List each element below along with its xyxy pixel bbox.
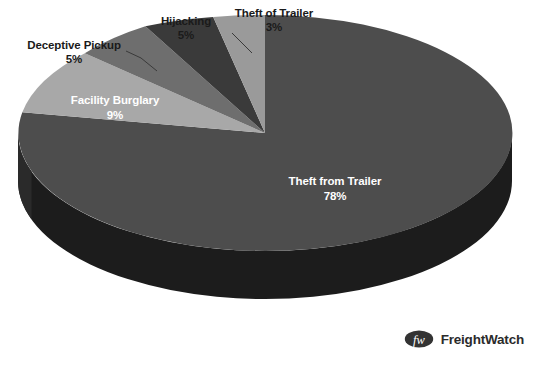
slice-label-deceptive-pickup-value: 5% bbox=[18, 52, 130, 66]
slice-label-facility-burglary-name: Facility Burglary bbox=[71, 94, 159, 106]
slice-label-theft-from-trailer-value: 78% bbox=[275, 189, 395, 204]
slice-label-facility-burglary: Facility Burglary 9% bbox=[57, 93, 173, 123]
fw-logo-monogram: fw bbox=[413, 333, 425, 347]
freightwatch-logo: fw FreightWatch bbox=[404, 329, 524, 349]
slice-label-theft-of-trailer-value: 3% bbox=[222, 20, 326, 34]
slice-label-theft-of-trailer: Theft of Trailer 3% bbox=[222, 6, 326, 35]
slice-label-theft-from-trailer-name: Theft from Trailer bbox=[289, 175, 382, 187]
slice-label-hijacking-name: Hijacking bbox=[161, 15, 211, 27]
slice-label-deceptive-pickup: Deceptive Pickup 5% bbox=[18, 38, 130, 67]
freightwatch-wordmark: FreightWatch bbox=[441, 332, 524, 347]
pie-chart-canvas: Deceptive Pickup 5% Hijacking 5% Theft o… bbox=[0, 0, 540, 367]
slice-label-facility-burglary-value: 9% bbox=[57, 108, 173, 123]
slice-label-deceptive-pickup-name: Deceptive Pickup bbox=[27, 39, 121, 51]
fw-logo-icon: fw bbox=[404, 329, 434, 349]
slice-label-theft-of-trailer-name: Theft of Trailer bbox=[235, 7, 313, 19]
slice-label-hijacking-value: 5% bbox=[150, 28, 222, 42]
slice-label-hijacking: Hijacking 5% bbox=[150, 14, 222, 43]
slice-label-theft-from-trailer: Theft from Trailer 78% bbox=[275, 174, 395, 204]
